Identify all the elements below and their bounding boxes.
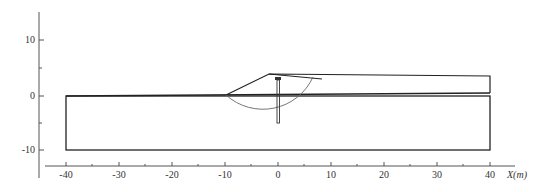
x-ticks — [66, 162, 490, 166]
slope-diagram: 10 0 -10 -40 -30 -20 -10 0 10 20 30 40 X… — [0, 0, 545, 192]
x-tick-label: 30 — [432, 169, 442, 180]
slip-circle — [226, 77, 313, 109]
x-tick-label: -20 — [165, 169, 178, 180]
y-tick-label: -10 — [22, 144, 35, 155]
x-tick-label: 0 — [276, 169, 281, 180]
x-tick-label: 10 — [326, 169, 336, 180]
y-tick-label: 10 — [25, 34, 35, 45]
x-tick-label: 40 — [485, 169, 495, 180]
x-tick-label: -40 — [59, 169, 72, 180]
pile — [277, 80, 280, 123]
x-tick-label: -10 — [218, 169, 231, 180]
x-axis-label: X(m) — [506, 169, 528, 181]
embankment — [226, 74, 490, 95]
x-tick-label: 20 — [379, 169, 389, 180]
x-tick-label: -30 — [112, 169, 125, 180]
y-tick-label: 0 — [30, 90, 35, 101]
